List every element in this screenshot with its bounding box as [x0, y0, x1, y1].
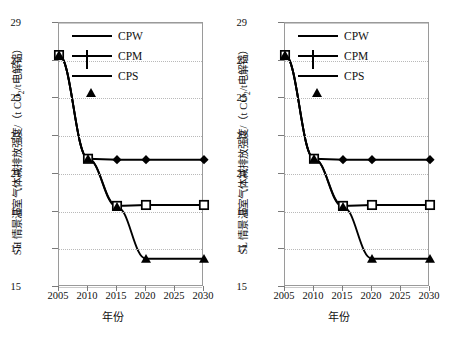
legend-sh: CPW CPM CPS: [72, 26, 143, 86]
x-tick-mark: [400, 286, 401, 291]
legend-label-cpw: CPW: [344, 30, 369, 42]
y-tick-label: 27: [0, 54, 21, 65]
y-tick-mark: [52, 60, 58, 61]
legend-item-cpm: CPM: [298, 46, 369, 66]
x-tick-mark: [87, 286, 88, 291]
y-tick-label: 21: [0, 167, 21, 178]
y-axis-title-sl: SL 情景温室气体减排放强度/（t CO2/t电解铝）: [230, 0, 258, 300]
x-tick-mark: [371, 286, 372, 291]
y-tick-label: 25: [207, 92, 247, 103]
gridline: [285, 287, 428, 288]
legend-key-cps: [298, 69, 338, 83]
chart-panel-sh: SH 情景温室气体减排放强度/（t CO2/t电解铝） CPW CPM: [0, 0, 226, 341]
y-tick-mark: [278, 173, 284, 174]
x-tick-mark: [58, 286, 59, 291]
legend-label-cpm: CPM: [344, 50, 368, 62]
y-tick-mark: [278, 97, 284, 98]
y-tick-mark: [278, 211, 284, 212]
x-tick-mark: [145, 286, 146, 291]
gridline: [285, 249, 428, 250]
open-square-icon: [312, 50, 314, 69]
y-tick-label: 15: [0, 281, 21, 292]
x-axis-title-sh: 年份: [0, 308, 226, 324]
y-tick-label: 29: [207, 17, 247, 28]
y-tick-mark: [52, 97, 58, 98]
figure-two-line-charts: SH 情景温室气体减排放强度/（t CO2/t电解铝） CPW CPM: [0, 0, 452, 341]
legend-key-cpw: [72, 29, 112, 43]
y-tick-label: 23: [0, 130, 21, 141]
y-tick-label: 29: [0, 17, 21, 28]
gridline: [285, 23, 428, 24]
open-square-icon: [86, 50, 88, 69]
y-tick-mark: [52, 173, 58, 174]
legend-item-cps: CPS: [298, 66, 369, 86]
x-tick-label: 2030: [183, 290, 223, 301]
gridline: [59, 287, 202, 288]
legend-key-cps: [72, 69, 112, 83]
data-point-cpw: [425, 155, 434, 164]
y-tick-label: 19: [207, 205, 247, 216]
y-tick-mark: [52, 248, 58, 249]
y-tick-mark: [52, 211, 58, 212]
x-tick-mark: [313, 286, 314, 291]
gridline: [59, 212, 202, 213]
data-point-cpw: [141, 155, 150, 164]
legend-key-cpm: [298, 49, 338, 63]
y-tick-mark: [52, 135, 58, 136]
gridline: [285, 174, 428, 175]
legend-item-cpw: CPW: [72, 26, 143, 46]
gridline: [59, 136, 202, 137]
data-point-cpw: [367, 155, 376, 164]
y-tick-mark: [278, 22, 284, 23]
legend-label-cpw: CPW: [118, 30, 143, 42]
y-axis-title-sh: SH 情景温室气体减排放强度/（t CO2/t电解铝）: [4, 0, 32, 300]
data-point-cpw: [112, 155, 121, 164]
data-point-cpm: [368, 201, 376, 209]
y-tick-label: 27: [207, 54, 247, 65]
y-axis-title-suffix: /t电解铝）: [12, 44, 23, 90]
legend-item-cpm: CPM: [72, 46, 143, 66]
x-tick-mark: [284, 286, 285, 291]
chart-panel-sl: SL 情景温室气体减排放强度/（t CO2/t电解铝） CPW CPM: [226, 0, 452, 341]
gridline: [285, 136, 428, 137]
y-tick-mark: [278, 248, 284, 249]
x-tick-mark: [116, 286, 117, 291]
x-tick-mark: [174, 286, 175, 291]
y-tick-mark: [278, 60, 284, 61]
y-tick-label: 25: [0, 92, 21, 103]
y-tick-mark: [52, 22, 58, 23]
x-tick-mark: [429, 286, 430, 291]
filled-triangle-icon: [86, 71, 96, 97]
y-tick-label: 15: [207, 281, 247, 292]
gridline: [285, 98, 428, 99]
y-tick-label: 17: [0, 243, 21, 254]
gridline: [285, 212, 428, 213]
x-tick-mark: [203, 286, 204, 291]
x-axis-title-sl: 年份: [226, 308, 452, 324]
gridline: [59, 249, 202, 250]
y-tick-mark: [278, 135, 284, 136]
x-tick-label: 2030: [409, 290, 449, 301]
legend-item-cpw: CPW: [298, 26, 369, 46]
legend-key-cpm: [72, 49, 112, 63]
y-tick-label: 21: [207, 167, 247, 178]
legend-key-cpw: [298, 29, 338, 43]
filled-triangle-icon: [312, 71, 322, 97]
data-point-cpw: [338, 155, 347, 164]
data-point-cpw: [199, 155, 208, 164]
data-point-cpm: [426, 201, 434, 209]
data-point-cpm: [142, 201, 150, 209]
x-tick-mark: [342, 286, 343, 291]
y-tick-label: 23: [207, 130, 247, 141]
legend-label-cpm: CPM: [118, 50, 142, 62]
legend-sl: CPW CPM CPS: [298, 26, 369, 86]
legend-label-cps: CPS: [118, 70, 138, 82]
y-tick-label: 17: [207, 243, 247, 254]
gridline: [59, 174, 202, 175]
gridline: [59, 23, 202, 24]
y-axis-title-suffix: /t电解铝）: [238, 45, 249, 91]
legend-label-cps: CPS: [344, 70, 364, 82]
y-tick-label: 19: [0, 205, 21, 216]
gridline: [59, 98, 202, 99]
legend-item-cps: CPS: [72, 66, 143, 86]
